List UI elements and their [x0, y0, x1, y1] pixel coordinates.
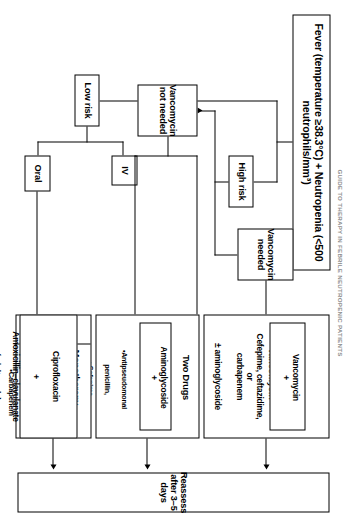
oral-regimen-line1: Ciprofloxacin — [49, 318, 59, 434]
figure-canvas: GUIDE TO THERAPY IN FEBRILE NEUTROPENIC … — [0, 0, 345, 525]
iv-label: IV — [119, 166, 129, 174]
outcome-label: Reassess after 3–5 days — [158, 471, 189, 512]
connector-to-iv — [122, 141, 123, 155]
vancomycin-inner-box: Vancomycin + — [269, 322, 305, 430]
arrow-monotherapy-outcome — [50, 464, 56, 469]
connector-title-stem — [276, 141, 292, 142]
oral-regimen-line2: + — [29, 318, 39, 434]
arrow-vanc-regimen-outcome — [263, 464, 269, 469]
febrile-neutropenia-flowchart: GUIDE TO THERAPY IN FEBRILE NEUTROPENIC … — [0, 0, 345, 525]
connector-high-risk-stem — [214, 181, 228, 182]
vanc-needed-label: Vancomycin needed — [255, 228, 276, 280]
connector-two-drugs-to-outcome — [146, 438, 147, 466]
arrow-two-drugs-outcome — [144, 464, 150, 469]
connector-oral-out — [36, 191, 37, 314]
vancomycin-detail: Cefepime, ceftazidime, or carbapenem — [233, 322, 263, 430]
two-drugs-label: Two Drugs — [179, 321, 190, 433]
connector-to-oral — [37, 141, 38, 155]
connector-low-risk-bar — [86, 126, 87, 142]
connector-vanc-regimen-to-outcome — [265, 438, 266, 466]
connector-risk-split — [276, 100, 277, 182]
high-risk-box: High risk — [228, 155, 253, 207]
vanc-needed-box: Vancomycin needed — [237, 228, 293, 280]
connector-to-two-drugs — [196, 155, 197, 314]
connector-to-high-risk — [253, 181, 277, 182]
oral-label: Oral — [32, 164, 42, 182]
connector-vanc-not-needed-out — [167, 136, 168, 156]
iv-box: IV — [111, 155, 137, 185]
connector-route-split — [37, 141, 123, 142]
connector-vanc-needed-out — [265, 280, 266, 314]
connector-regimen-split — [134, 155, 197, 156]
vanc-not-needed-label: Vancomycin not needed — [157, 84, 178, 136]
two-drugs-inner-label: Aminoglycoside + — [147, 323, 167, 431]
oral-regimen-text: Ciprofloxacin + Amoxicillin–clavulanate … — [0, 318, 69, 434]
title-box: Fever (temperature ≥38.3°C) + Neutropeni… — [292, 14, 330, 270]
two-drugs-inner-box: Aminoglycoside + — [139, 322, 171, 430]
page-title: Fever (temperature ≥38.3°C) + Neutropeni… — [299, 15, 323, 269]
connector-to-vanc-needed — [214, 254, 237, 255]
outcome-box: Reassess after 3–5 days — [17, 472, 329, 512]
connector-monotherapy-to-outcome — [52, 438, 53, 466]
oral-regimen-line3: Amoxicillin–clavulanate — [10, 318, 20, 434]
vancomycin-suffix: ± aminoglycoside — [211, 322, 221, 430]
low-risk-label: Low risk — [81, 82, 91, 118]
connector-to-monotherapy — [134, 155, 135, 314]
oral-box: Oral — [24, 155, 50, 191]
two-drugs-bullet-0: •Antipseudomonal — [118, 324, 126, 434]
high-risk-label: High risk — [235, 162, 245, 200]
vanc-not-needed-box: Vancomycin not needed — [137, 84, 197, 136]
low-risk-box: Low risk — [74, 74, 99, 126]
arrow-vanc-not-needed — [197, 107, 202, 113]
figure-header: GUIDE TO THERAPY IN FEBRILE NEUTROPENIC … — [336, 0, 343, 525]
connector-vanc-split — [214, 110, 215, 255]
vancomycin-inner-label: Vancomycin + — [279, 323, 299, 431]
two-drugs-bullet-1: penicillin, — [102, 324, 110, 434]
